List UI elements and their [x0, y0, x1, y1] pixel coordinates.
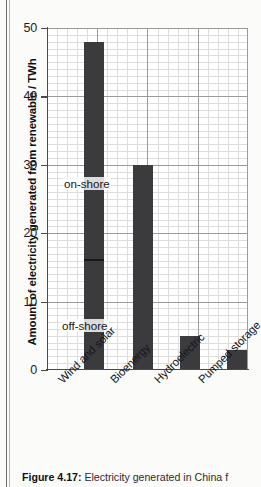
figure-number: Figure 4.17:: [22, 471, 81, 483]
y-tick-40: [41, 96, 47, 97]
y-tick-10: [41, 302, 47, 303]
y-tick-50: [41, 28, 47, 29]
bar-segment-divider-lower: [84, 259, 104, 261]
y-tick-label-20: 20: [0, 226, 37, 240]
annotation-on-shore: on-shore: [63, 177, 111, 190]
y-tick-20: [41, 233, 47, 234]
plot-area: on-shore off-shore: [47, 28, 248, 370]
bar-chart-figure: Amount of electricity generated from ren…: [0, 0, 261, 470]
figure-caption: Figure 4.17: Electricity generated in Ch…: [22, 471, 261, 487]
y-tick-0: [41, 370, 47, 371]
bar-bioenergy: [133, 165, 153, 370]
y-tick-label-30: 30: [0, 158, 37, 172]
y-tick-label-50: 50: [0, 21, 37, 35]
y-axis-line: [47, 27, 48, 371]
y-axis-title: Amount of electricity generated from ren…: [26, 37, 38, 367]
y-tick-label-40: 40: [0, 89, 37, 103]
y-tick-label-10: 10: [0, 295, 37, 309]
y-tick-label-0: 0: [0, 363, 37, 377]
y-tick-30: [41, 165, 47, 166]
figure-caption-text: Electricity generated in China f: [81, 471, 228, 483]
book-page: Amount of electricity generated from ren…: [0, 0, 261, 487]
